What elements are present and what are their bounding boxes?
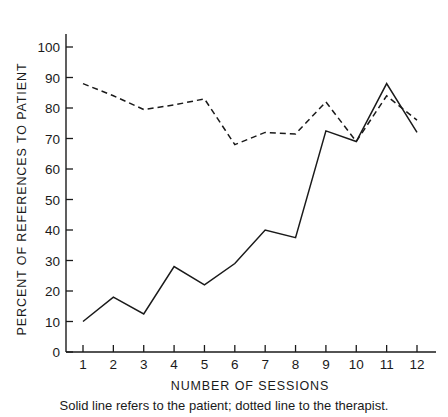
y-axis-tick-label: 20 [45,284,60,299]
chart-figure: 0102030405060708090100123456789101112NUM… [0,0,448,417]
x-axis-tick-label: 6 [231,357,239,372]
y-axis-tick-label: 100 [37,40,60,55]
x-axis-tick-label: 3 [140,357,148,372]
x-axis-tick-label: 1 [79,357,87,372]
x-axis-tick-label: 2 [110,357,118,372]
y-axis-title: PERCENT OF REFERENCES TO PATIENT [15,63,29,336]
x-axis-tick-label: 11 [380,357,394,372]
y-axis-tick-label: 50 [45,193,60,208]
y-axis-tick-label: 10 [45,315,60,330]
series-line-patient [83,84,417,322]
y-axis-tick-label: 70 [45,132,60,147]
x-axis-tick-label: 9 [322,357,330,372]
y-axis-tick-label: 30 [45,254,60,269]
figure-caption: Solid line refers to the patient; dotted… [60,398,389,413]
y-axis-tick-label: 0 [52,345,60,360]
x-axis-title: NUMBER OF SESSIONS [171,379,330,393]
line-chart: 0102030405060708090100123456789101112NUM… [0,0,448,417]
series-line-therapist [83,84,417,145]
x-axis-tick-label: 7 [261,357,269,372]
y-axis-tick-label: 80 [45,101,60,116]
x-axis-tick-label: 10 [349,357,364,372]
x-axis-tick-label: 8 [292,357,300,372]
x-axis-tick-label: 5 [201,357,209,372]
x-axis-tick-label: 12 [409,357,424,372]
y-axis-tick-label: 40 [45,223,60,238]
y-axis-tick-label: 90 [45,71,60,86]
x-axis-tick-label: 4 [170,357,178,372]
y-axis-tick-label: 60 [45,162,60,177]
